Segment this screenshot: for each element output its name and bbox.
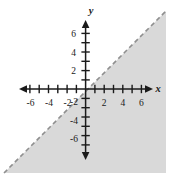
coordinate-plane-figure: -6 -4 -2 2 4 6 x xyxy=(0,0,170,176)
y-axis-name-label: y xyxy=(87,5,94,16)
x-tick-label-neg6: -6 xyxy=(27,98,35,108)
x-tick-label-neg4: -4 xyxy=(45,98,53,108)
x-tick-label-6: 6 xyxy=(139,98,144,108)
y-tick-label-4: 4 xyxy=(71,48,76,58)
y-tick-label-6: 6 xyxy=(71,29,76,39)
x-tick-label-2: 2 xyxy=(102,98,107,108)
coordinate-plane-svg: -6 -4 -2 2 4 6 x xyxy=(0,0,170,176)
x-axis-name-label: x xyxy=(154,83,160,94)
y-tick-label-neg4: -4 xyxy=(70,116,78,126)
y-tick-label-2: 2 xyxy=(71,66,76,76)
x-tick-label-4: 4 xyxy=(120,98,125,108)
y-tick-label-neg2: -2 xyxy=(70,97,78,107)
y-tick-label-neg6: -6 xyxy=(70,134,78,144)
